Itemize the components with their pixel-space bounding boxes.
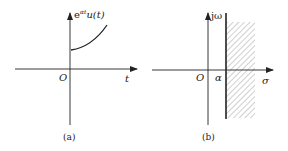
x-axis-label-b: σ xyxy=(262,75,270,86)
caption-a: (a) xyxy=(63,132,75,142)
origin-label-a: O xyxy=(59,72,67,83)
diagram-canvas: eαtu(t) O t (a) jω O α σ (b) xyxy=(0,0,288,151)
panel-a: eαtu(t) O t (a) xyxy=(15,8,137,142)
alpha-label: α xyxy=(215,72,222,83)
x-axis-label-a: t xyxy=(125,73,130,84)
y-axis-label-a: eαtu(t) xyxy=(74,8,105,20)
exponential-curve xyxy=(71,25,107,50)
caption-b: (b) xyxy=(202,132,215,142)
y-axis-label-b: jω xyxy=(210,10,222,21)
panel-b: jω O α σ (b) xyxy=(152,10,273,142)
origin-label-b: O xyxy=(196,72,204,83)
